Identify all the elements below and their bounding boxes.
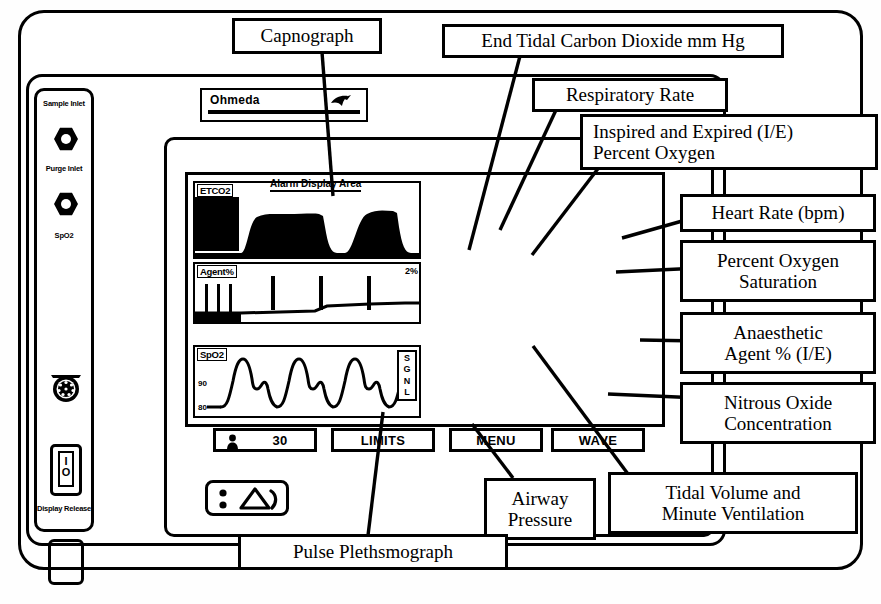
limits-softkey-label: LIMITS — [361, 433, 405, 448]
alarm-silence-button[interactable] — [205, 480, 289, 516]
annotation-capnograph: Capnograph — [232, 18, 382, 54]
power-off-symbol: O — [60, 467, 72, 478]
spo2-waveform-label: SpO2 — [197, 348, 227, 361]
diagram-canvas: Sample Inlet Purge Inlet SpO2 — [0, 0, 881, 604]
power-switch[interactable]: I O — [50, 444, 82, 496]
annotation-tidal-volume: Tidal Volume and Minute Ventilation — [608, 472, 858, 534]
spo2-port-label: SpO2 — [35, 231, 93, 240]
connector-panel: Sample Inlet Purge Inlet SpO2 — [34, 88, 94, 532]
annotation-anaesthetic-agent: Anaesthetic Agent % (I/E) — [680, 312, 876, 374]
spo2-connector-icon — [48, 369, 84, 403]
brand-rule — [208, 110, 360, 114]
alarm-display-area-label: Alarm Display Area — [270, 178, 361, 192]
person-icon — [225, 434, 240, 451]
agent-waveform-panel: Agent% 2% — [193, 262, 421, 324]
alarm-silence-icon — [209, 484, 287, 514]
annotation-ie-percent-oxygen: Inspired and Expired (I/E) Percent Oxyge… — [580, 114, 878, 170]
annotation-heart-rate: Heart Rate (bpm) — [680, 194, 876, 232]
sample-inlet-label: Sample Inlet — [35, 99, 93, 108]
annotation-percent-oxygen-saturation: Percent Oxygen Saturation — [680, 240, 876, 302]
wave-softkey[interactable]: WAVE — [551, 428, 645, 452]
etco2-waveform-panel: ETCO2 — [193, 181, 421, 259]
annotation-respiratory-rate: Respiratory Rate — [532, 78, 728, 112]
spo2-signal-indicator: SGNL — [397, 350, 417, 401]
annotation-airway-pressure: Airway Pressure — [484, 478, 596, 540]
power-rocker[interactable]: I O — [58, 451, 74, 487]
limits-softkey[interactable]: LIMITS — [331, 428, 435, 452]
agent-scale-label: 2% — [405, 266, 418, 276]
rate-softkey[interactable]: 30 — [213, 428, 317, 452]
rate-softkey-label: 30 — [242, 433, 287, 448]
annotation-end-tidal-co2: End Tidal Carbon Dioxide mm Hg — [442, 24, 784, 58]
pulse-plethysmograph-waveform — [195, 347, 419, 416]
ohmeda-leaf-logo-icon — [330, 94, 352, 108]
agent-waveform-label: Agent% — [197, 265, 237, 278]
menu-softkey[interactable]: MENU — [449, 428, 543, 452]
sample-inlet-port[interactable] — [54, 127, 78, 151]
menu-softkey-label: MENU — [476, 433, 515, 448]
brand-plate: Ohmeda — [200, 88, 368, 122]
purge-inlet-port[interactable] — [54, 192, 78, 216]
spo2-connector-port[interactable] — [48, 369, 84, 403]
wave-softkey-label: WAVE — [579, 433, 618, 448]
spo2-waveform-panel: SpO2 90 80 SGNL — [193, 345, 421, 418]
display-release-label: Display Release — [35, 504, 93, 513]
etco2-waveform-label: ETCO2 — [197, 184, 233, 197]
annotation-nitrous-oxide: Nitrous Oxide Concentration — [680, 382, 876, 444]
brand-name: Ohmeda — [210, 93, 260, 107]
display-release-button[interactable] — [48, 539, 84, 585]
annotation-pulse-plethsmograph: Pulse Plethsmograph — [238, 534, 508, 570]
purge-inlet-label: Purge Inlet — [35, 164, 93, 173]
